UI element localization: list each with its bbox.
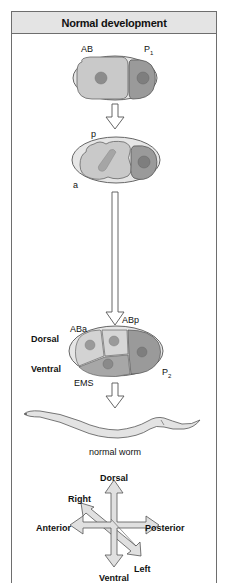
label-dorsal-embryo: Dorsal: [31, 334, 59, 344]
axis-left: Left: [134, 564, 151, 574]
label-p-lower: p: [91, 129, 96, 139]
label-abp: ABp: [122, 315, 139, 325]
aba-nucleus: [85, 340, 95, 350]
p1-nucleus: [137, 72, 149, 84]
down-arrow-1: [106, 104, 124, 129]
dividing-embryo: [72, 137, 160, 183]
label-a-lower: a: [73, 180, 78, 190]
down-arrow-long: [106, 192, 124, 325]
axis-dorsal: Dorsal: [100, 473, 128, 483]
label-ab: AB: [81, 44, 93, 54]
axis-ventral: Ventral: [99, 573, 129, 583]
abp-nucleus: [109, 336, 119, 346]
axis-right: Right: [68, 494, 91, 504]
p1-nucleus-stage2: [138, 156, 150, 168]
p2-nucleus: [137, 347, 147, 357]
axis-anterior: Anterior: [36, 523, 72, 533]
axis-posterior: Posterior: [145, 523, 185, 533]
label-p2: P2: [162, 367, 172, 379]
two-cell-embryo: [73, 56, 157, 100]
down-arrow-3: [106, 383, 124, 408]
label-p1: P1: [144, 44, 154, 56]
development-diagram: AB P1 p a ABa ABp Dorsal Ventral EMS P2: [0, 0, 230, 583]
ems-nucleus: [103, 359, 113, 369]
label-ventral-embryo: Ventral: [31, 364, 61, 374]
ab-nucleus: [95, 72, 107, 84]
worm-caption: normal worm: [89, 447, 141, 457]
label-ems: EMS: [74, 378, 94, 388]
worm-illustration: [24, 411, 200, 438]
label-aba: ABa: [70, 324, 87, 334]
